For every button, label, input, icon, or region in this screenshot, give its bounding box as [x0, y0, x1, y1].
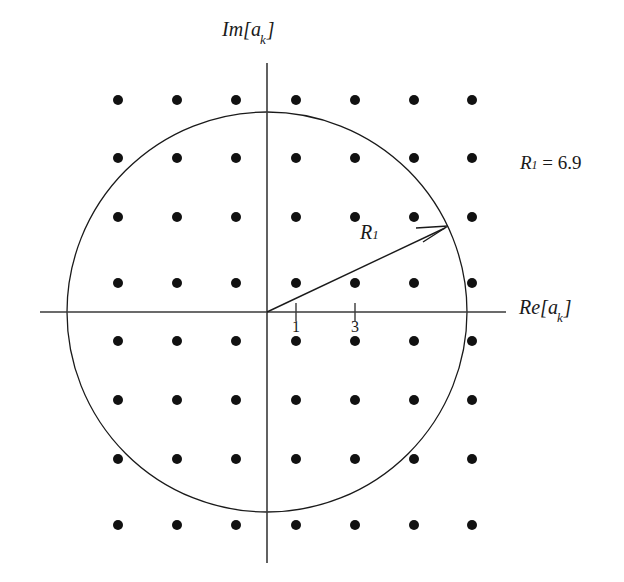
constellation-point [409, 336, 419, 346]
constellation-point [409, 395, 419, 405]
radius-value-equals: = 6.9 [538, 152, 582, 173]
constellation-point [409, 153, 419, 163]
constellation-point [113, 212, 123, 222]
constellation-point [409, 212, 419, 222]
real-axis-label: Re[ak] [519, 296, 571, 323]
tick-label-3: 3 [351, 318, 359, 336]
constellation-point [467, 336, 477, 346]
constellation-point [467, 454, 477, 464]
constellation-point [172, 95, 182, 105]
constellation-point [231, 336, 241, 346]
constellation-point [291, 278, 301, 288]
constellation-point [350, 395, 360, 405]
constellation-point [467, 95, 477, 105]
constellation-point [350, 520, 360, 530]
constellation-point [113, 95, 123, 105]
real-axis-label-bracket: ] [564, 296, 572, 318]
constellation-point [291, 153, 301, 163]
constellation-point [113, 336, 123, 346]
constellation-point [231, 212, 241, 222]
constellation-point [350, 95, 360, 105]
constellation-point [467, 395, 477, 405]
constellation-point [231, 153, 241, 163]
radius-arrow-symbol: R [360, 221, 372, 243]
constellation-point [350, 278, 360, 288]
radius-value-symbol: R [520, 152, 532, 173]
constellation-point [291, 336, 301, 346]
constellation-point [291, 520, 301, 530]
constellation-point [231, 395, 241, 405]
constellation-point [350, 212, 360, 222]
constellation-point [467, 212, 477, 222]
constellation-point [291, 395, 301, 405]
radius-arrow-subscript: 1 [372, 227, 379, 242]
imaginary-axis-label-bracket: ] [267, 18, 275, 40]
constellation-point [409, 520, 419, 530]
radius-arrow-label: R1 [360, 221, 379, 244]
imaginary-axis-label-text: Im[a [222, 18, 261, 40]
constellation-point [231, 278, 241, 288]
constellation-point [291, 454, 301, 464]
constellation-point [231, 95, 241, 105]
constellation-diagram: Im[ak] Re[ak] R1 = 6.9 R1 1 3 [0, 0, 624, 582]
constellation-point [113, 395, 123, 405]
constellation-point [172, 336, 182, 346]
constellation-point [409, 278, 419, 288]
constellation-point [172, 153, 182, 163]
imaginary-axis-label-subscript: k [260, 32, 266, 47]
constellation-point [350, 336, 360, 346]
diagram-canvas [0, 0, 624, 582]
constellation-point [172, 520, 182, 530]
radius-value-annotation: R1 = 6.9 [520, 152, 582, 174]
constellation-point [113, 454, 123, 464]
real-axis-label-subscript: k [557, 310, 563, 325]
constellation-point [113, 153, 123, 163]
constellation-point [467, 153, 477, 163]
constellation-point [291, 212, 301, 222]
constellation-point [172, 278, 182, 288]
constellation-point [231, 520, 241, 530]
constellation-point [231, 454, 241, 464]
radius-arrow-line [267, 228, 445, 312]
constellation-point [467, 278, 477, 288]
constellation-point [172, 212, 182, 222]
constellation-point [350, 153, 360, 163]
constellation-point [409, 95, 419, 105]
constellation-point [291, 95, 301, 105]
constellation-point [113, 278, 123, 288]
constellation-point [113, 520, 123, 530]
constellation-point [409, 454, 419, 464]
real-axis-label-text: Re[a [519, 296, 558, 318]
constellation-point [467, 520, 477, 530]
constellation-point [172, 454, 182, 464]
imaginary-axis-label: Im[ak] [222, 18, 274, 45]
constellation-point [172, 395, 182, 405]
constellation-point [350, 454, 360, 464]
tick-label-1: 1 [292, 318, 300, 336]
